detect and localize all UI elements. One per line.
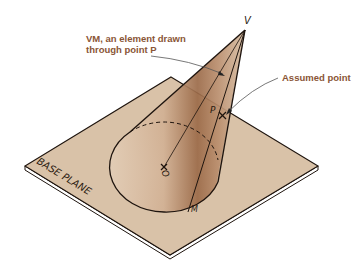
callout-element-line2: through point P <box>86 44 186 55</box>
callout-element-vm: VM, an element drawn through point P <box>86 33 186 55</box>
base-point-label: M <box>191 205 198 214</box>
callout-assumed-point: Assumed point <box>282 72 351 83</box>
callout-element-line1: VM, an element drawn <box>86 33 186 44</box>
point-p-label: P <box>210 105 216 115</box>
vertex-label: V <box>244 15 252 26</box>
